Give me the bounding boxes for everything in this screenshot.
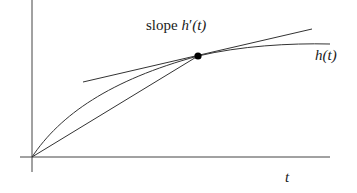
slope-label: slope h′(t) (146, 17, 206, 34)
x-axis-label: t (285, 169, 290, 185)
curve-label: h(t) (315, 47, 337, 64)
diagram-canvas: slope h′(t) h(t) t (0, 0, 357, 193)
curve-h (32, 44, 330, 157)
tangent-point (194, 52, 201, 59)
secant-line (32, 56, 198, 157)
